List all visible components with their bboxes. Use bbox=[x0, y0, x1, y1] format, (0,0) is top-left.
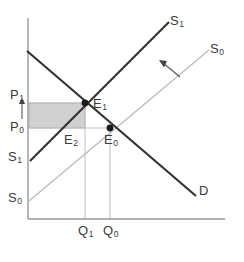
equilibrium-e1-label: E1 bbox=[93, 97, 107, 110]
quantity-q0-label: Q0 bbox=[103, 224, 118, 237]
equilibrium-point-e1 bbox=[82, 100, 89, 107]
price-p0-label: P0 bbox=[10, 120, 24, 133]
demand-curve-label: D bbox=[199, 184, 209, 197]
quantity-q1-label: Q1 bbox=[78, 224, 93, 237]
price-p1-label: P1 bbox=[10, 88, 24, 101]
supply-demand-chart: D S1 S0 S1 S0 E1 E0 E2 P1 P0 Q1 Q0 bbox=[0, 0, 244, 262]
equilibrium-e0-label: E0 bbox=[104, 133, 118, 146]
equilibrium-e2-label: E2 bbox=[64, 133, 78, 146]
supply-shift-arrow-icon bbox=[159, 60, 180, 77]
supply-s1-intercept-label: S1 bbox=[8, 150, 22, 163]
chart-canvas bbox=[0, 0, 244, 262]
supply-s0-intercept-label: S0 bbox=[8, 191, 22, 204]
supply-curve-s1-label: S1 bbox=[170, 14, 184, 27]
equilibrium-point-e0 bbox=[107, 125, 114, 132]
supply-curve-s0-label: S0 bbox=[210, 42, 224, 55]
supply-curve-s1 bbox=[30, 22, 169, 161]
